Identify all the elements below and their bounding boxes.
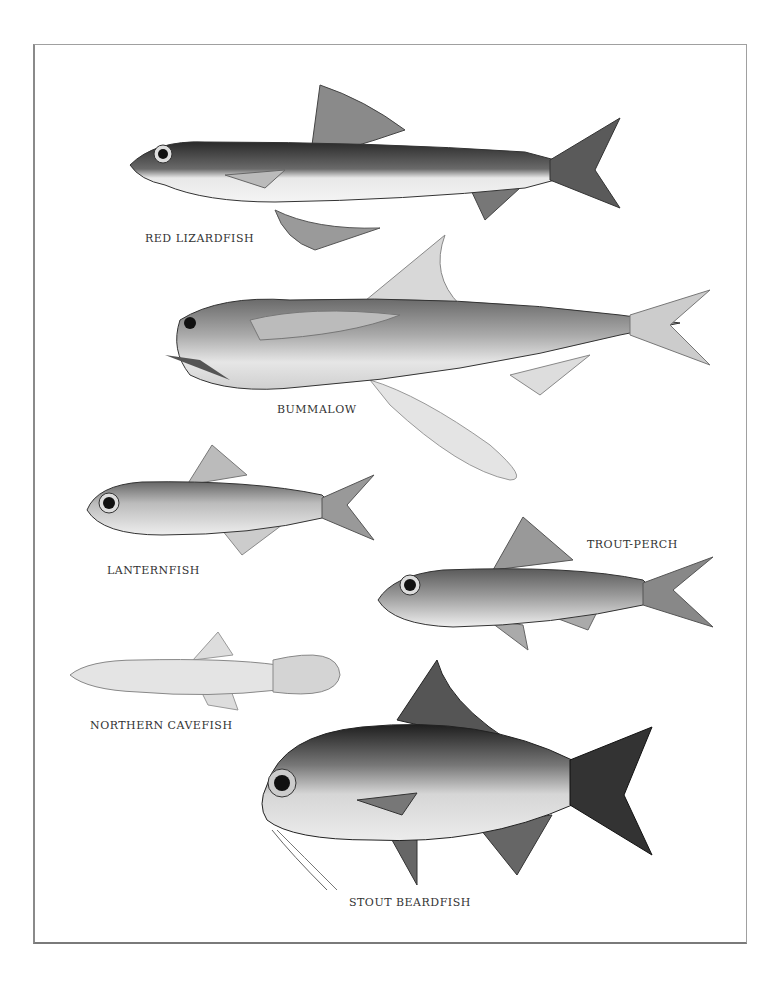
- stout-beardfish-illustration: [252, 655, 662, 895]
- fish-label-stout-beardfish: STOUT BEARDFISH: [349, 896, 471, 909]
- fish-label-trout-perch: TROUT-PERCH: [587, 538, 678, 551]
- fish-label-lanternfish: LANTERNFISH: [107, 564, 200, 577]
- red-lizardfish-illustration: [125, 80, 625, 255]
- lanternfish-illustration: [82, 440, 382, 560]
- fish-label-bummalow: BUMMALOW: [277, 403, 356, 416]
- fish-label-northern-cavefish: NORTHERN CAVEFISH: [90, 719, 233, 732]
- trout-perch-illustration: [373, 515, 718, 655]
